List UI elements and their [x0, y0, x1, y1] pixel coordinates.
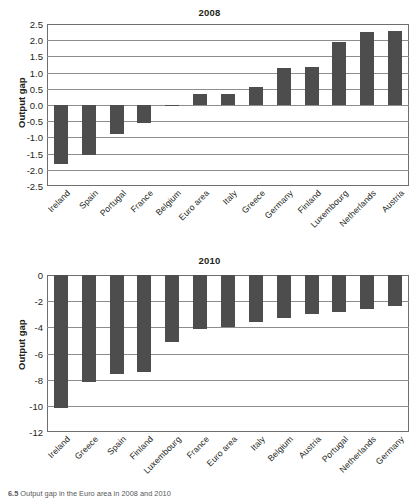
- plot-area-2010: 0-2-4-6-8-10-12: [47, 275, 409, 432]
- x-tick-label: Ireland: [46, 188, 72, 214]
- x-axis-labels-2010: IrelandGreeceSpainFinlandLuxembourgFranc…: [47, 434, 409, 494]
- y-tick-label: -1.5: [27, 148, 43, 159]
- x-tick-label: Italy: [248, 434, 267, 453]
- output-gap-figure: 2008 Output gap 2.52.01.51.00.50.0-0.5-1…: [0, 0, 419, 501]
- x-tick-label: Germany: [374, 434, 407, 467]
- y-tick-label: 0: [38, 270, 43, 281]
- bar: [110, 275, 124, 374]
- y-tick-label: 2.5: [30, 19, 43, 30]
- x-tick-label: Italy: [220, 188, 239, 207]
- bar: [249, 87, 263, 105]
- y-tick-label: -12: [29, 427, 43, 438]
- chart-panel-2008: 2008 Output gap 2.52.01.51.00.50.0-0.5-1…: [0, 0, 419, 250]
- x-tick-label: Germany: [262, 188, 295, 221]
- bar: [221, 94, 235, 105]
- bar-series-2008: [47, 24, 409, 186]
- bar: [137, 105, 151, 123]
- y-tick-label: -2.0: [27, 164, 43, 175]
- bar: [277, 68, 291, 105]
- bar: [305, 275, 319, 314]
- bar: [193, 94, 207, 105]
- y-tick-label: -1.0: [27, 132, 43, 143]
- chart-panel-2010: 2010 Output gap 0-2-4-6-8-10-12 IrelandG…: [0, 250, 419, 490]
- chart-title-2008: 2008: [0, 7, 419, 18]
- bar: [165, 275, 179, 342]
- bar: [165, 105, 179, 106]
- y-tick-label: -2.5: [27, 181, 43, 192]
- x-tick-label: Portugal: [97, 188, 127, 218]
- x-tick-label: Ireland: [46, 434, 72, 460]
- figure-caption-text: Output gap in the Euro area in 2008 and …: [20, 489, 170, 498]
- x-tick-label: Austria: [380, 188, 406, 214]
- y-axis-label-2010: Output gap: [16, 319, 27, 370]
- x-tick-label: Spain: [105, 434, 128, 457]
- chart-title-2010: 2010: [0, 255, 419, 266]
- x-tick-label: France: [185, 434, 211, 460]
- bar: [54, 105, 68, 164]
- bar: [277, 275, 291, 318]
- bar: [137, 275, 151, 372]
- x-tick-label: France: [129, 188, 155, 214]
- y-tick-label: -2: [35, 296, 43, 307]
- bar: [388, 275, 402, 306]
- y-tick-label: 2.0: [30, 35, 43, 46]
- bar: [193, 275, 207, 329]
- bar-series-2010: [47, 275, 409, 432]
- bar: [82, 275, 96, 382]
- y-tick-label: 1.5: [30, 51, 43, 62]
- bar: [332, 42, 346, 105]
- bar: [221, 275, 235, 327]
- bar: [360, 32, 374, 105]
- x-tick-label: Spain: [77, 188, 100, 211]
- bar: [388, 31, 402, 105]
- plot-area-2008: 2.52.01.51.00.50.0-0.5-1.0-1.5-2.0-2.5: [47, 24, 409, 186]
- y-tick-label: 0.0: [30, 100, 43, 111]
- y-tick-label: 1.0: [30, 67, 43, 78]
- y-tick-label: -0.5: [27, 116, 43, 127]
- bar: [360, 275, 374, 309]
- bar: [332, 275, 346, 312]
- y-tick-label: -6: [35, 348, 43, 359]
- x-axis-labels-2008: IrelandSpainPortugalFranceBelgiumEuro ar…: [47, 188, 409, 248]
- bar: [82, 105, 96, 155]
- y-axis-label-2008: Output gap: [16, 77, 27, 128]
- x-tick-label: Belgium: [265, 434, 295, 464]
- x-tick-label: Greece: [72, 434, 99, 461]
- bar: [249, 275, 263, 322]
- bar: [305, 67, 319, 105]
- y-tick-label: 0.5: [30, 83, 43, 94]
- figure-caption: 6.5 Output gap in the Euro area in 2008 …: [8, 489, 413, 498]
- y-tick-label: -8: [35, 374, 43, 385]
- y-tick-label: -4: [35, 322, 43, 333]
- figure-caption-number: 6.5: [8, 489, 18, 498]
- y-tick-label: -10: [29, 400, 43, 411]
- bar: [110, 105, 124, 134]
- bar: [54, 275, 68, 408]
